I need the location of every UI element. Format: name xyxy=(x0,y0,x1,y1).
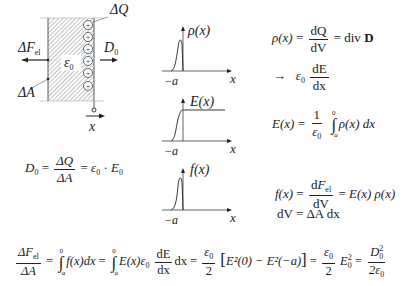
x-axis-arrow-icon xyxy=(99,114,105,119)
rho-equation-line2: → ε0 dEdx xyxy=(273,62,331,92)
svg-text:+: + xyxy=(86,82,91,91)
svg-text:+: + xyxy=(86,33,91,42)
e-tick-label: −a xyxy=(164,145,178,157)
d0-equation: D0 = ΔQΔA = ε0 · E0 xyxy=(25,154,123,184)
rho-x-label: x xyxy=(230,72,236,85)
svg-text:+: + xyxy=(86,57,91,66)
f-plot-label: f(x) xyxy=(190,163,209,177)
d0-label: D0 xyxy=(104,41,118,57)
svg-text:+: + xyxy=(86,69,91,78)
x-label: x xyxy=(89,120,95,134)
e-plot-label: E(x) xyxy=(190,95,214,109)
delta-q-label: ΔQ xyxy=(110,3,128,17)
d0-arrow-icon xyxy=(112,58,118,63)
f-x-label: x xyxy=(230,211,236,224)
dv-equation: dV = ΔA dx xyxy=(277,207,340,220)
rho-plot-label: ρ(x) xyxy=(188,24,210,38)
f-tick-label: −a xyxy=(164,214,178,226)
rho-equation: ρ(x) = dQdV = div D xyxy=(272,24,374,54)
svg-text:+: + xyxy=(86,21,91,30)
force-arrow-icon xyxy=(22,58,28,63)
svg-text:+: + xyxy=(86,45,91,54)
rho-tick-label: −a xyxy=(164,75,178,87)
delta-a-label: ΔA xyxy=(18,86,35,100)
force-derivation: ΔFelΔA = 0∫−af(x)dx = 0∫−aE(x)ε0 dEdxdx … xyxy=(14,245,388,279)
e-x-label: x xyxy=(230,142,236,155)
e-equation: E(x) = 1ε0 0∫−aρ(x) dx xyxy=(272,108,375,141)
delta-f-label: ΔFel xyxy=(18,41,41,57)
epsilon0-label: ε0 xyxy=(64,56,74,72)
